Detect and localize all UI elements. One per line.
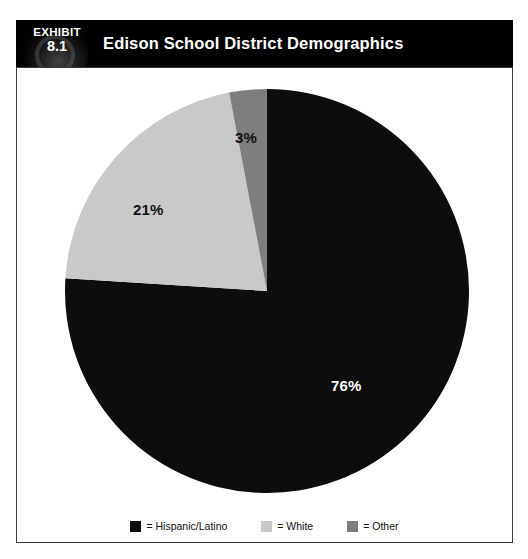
pie-label-hispanic-latino: 76%: [331, 377, 362, 394]
chart-panel: 76% 21% 3% = Hispanic/Latino = White = O…: [16, 67, 513, 543]
pie-chart-svg: [65, 89, 469, 493]
pie-chart: 76% 21% 3%: [65, 89, 469, 493]
page-title: Edison School District Demographics: [103, 20, 403, 67]
exhibit-label: EXHIBIT: [24, 26, 90, 38]
legend-label-other: = Other: [363, 520, 398, 532]
legend-swatch-icon-hispanic-latino: [130, 521, 141, 532]
legend-item-white[interactable]: = White: [261, 520, 313, 532]
legend-item-hispanic-latino[interactable]: = Hispanic/Latino: [130, 520, 227, 532]
pie-label-white: 21%: [133, 201, 164, 218]
legend-swatch-icon-white: [261, 521, 272, 532]
chart-legend: = Hispanic/Latino = White = Other: [17, 520, 512, 532]
exhibit-figure: EXHIBIT 8.1 Edison School District Demog…: [0, 0, 528, 559]
pie-label-other: 3%: [235, 129, 257, 146]
exhibit-header-bar: EXHIBIT 8.1 Edison School District Demog…: [16, 20, 513, 67]
exhibit-tag: EXHIBIT 8.1: [24, 26, 90, 55]
legend-label-white: = White: [277, 520, 313, 532]
legend-item-other[interactable]: = Other: [347, 520, 398, 532]
legend-swatch-icon-other: [347, 521, 358, 532]
exhibit-number: 8.1: [24, 39, 90, 55]
legend-label-hispanic-latino: = Hispanic/Latino: [146, 520, 227, 532]
